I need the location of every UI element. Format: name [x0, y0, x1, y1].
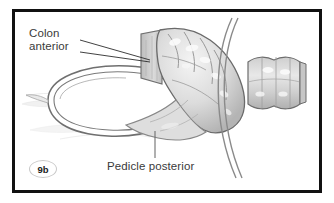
label-colon-anterior: Colonanterior — [29, 27, 69, 53]
figure-container: Colonanterior Pedicle posterior 9b — [0, 0, 334, 203]
figure-id-badge: 9b — [29, 160, 57, 178]
label-colon-line1: Colon — [29, 27, 60, 39]
label-pedicle-posterior: Pedicle posterior — [107, 160, 194, 173]
label-colon-line2: anterior — [29, 40, 69, 52]
leader-line-colon — [80, 40, 150, 62]
distal-bowel-segment — [248, 57, 306, 109]
